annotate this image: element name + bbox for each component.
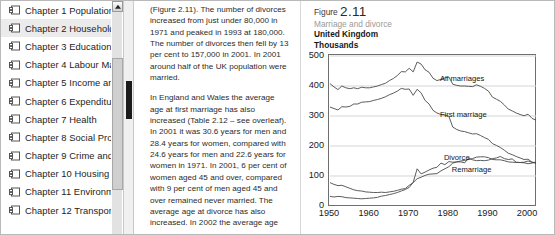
y-axis-tick-label: 200 xyxy=(284,141,324,150)
outer-scrollbar[interactable] xyxy=(111,1,122,234)
figure-geography: United Kingdom xyxy=(314,29,534,39)
triangle-up-icon xyxy=(115,4,121,8)
figure-panel: Figure 2.11 Marriage and divorce United … xyxy=(300,1,554,234)
bookmarks-sidebar[interactable]: Chapter 1 PopulationChapter 2 Households… xyxy=(1,1,111,234)
folder-icon xyxy=(9,169,20,179)
figure-number: 2.11 xyxy=(340,4,366,19)
pane-divider xyxy=(135,1,148,234)
figure-number-line: Figure 2.11 xyxy=(314,6,534,18)
sidebar-item-chapter-2[interactable]: Chapter 2 Households xyxy=(1,19,111,37)
sidebar-item-chapter-10[interactable]: Chapter 10 Housing xyxy=(1,165,111,183)
folder-icon xyxy=(9,23,20,33)
folder-icon xyxy=(9,5,20,15)
sidebar-item-label: Chapter 4 Labour Market xyxy=(25,59,111,70)
series-label-divorce: Divorce xyxy=(444,153,470,162)
folder-icon xyxy=(9,187,20,197)
sidebar-item-chapter-11[interactable]: Chapter 11 Environment xyxy=(1,183,111,201)
body-paragraph-1: (Figure 2.11). The number of divorces in… xyxy=(150,4,290,83)
sidebar-item-chapter-6[interactable]: Chapter 6 Expenditure xyxy=(1,92,111,110)
sidebar-item-chapter-12[interactable]: Chapter 12 Transport xyxy=(1,201,111,219)
scroll-up-button[interactable] xyxy=(112,1,123,12)
folder-icon xyxy=(9,205,20,215)
sidebar-item-label: Chapter 5 Income and Wealth xyxy=(25,77,111,88)
pdf-reader-window: Chapter 1 PopulationChapter 2 Households… xyxy=(0,0,555,235)
x-axis-tick-label: 1980 xyxy=(428,209,468,218)
sidebar-item-label: Chapter 10 Housing xyxy=(25,168,109,179)
folder-icon xyxy=(9,132,20,142)
x-axis-tick-label: 2000 xyxy=(507,209,547,218)
sidebar-item-chapter-3[interactable]: Chapter 3 Education xyxy=(1,37,111,55)
sidebar-item-label: Chapter 2 Households xyxy=(25,23,111,34)
x-axis-tick-label: 1950 xyxy=(309,209,349,218)
folder-icon xyxy=(9,78,20,88)
series-line-divorce xyxy=(330,157,536,199)
sidebar-item-chapter-7[interactable]: Chapter 7 Health xyxy=(1,110,111,128)
body-paragraph-2: In England and Wales the average age at … xyxy=(150,92,290,232)
series-line-remarriage xyxy=(330,157,536,193)
sidebar-item-label: Chapter 6 Expenditure xyxy=(25,96,111,107)
y-axis-tick-label: 400 xyxy=(284,81,324,90)
sidebar-item-chapter-8[interactable]: Chapter 8 Social Protection xyxy=(1,128,111,146)
y-axis-tick-label: 300 xyxy=(284,111,324,120)
x-axis-tick-label: 1990 xyxy=(467,209,507,218)
folder-icon xyxy=(9,41,20,51)
figure-subtitle: Marriage and divorce xyxy=(314,19,534,29)
sidebar-item-label: Chapter 1 Population xyxy=(25,5,111,16)
y-axis-tick-label: 500 xyxy=(284,51,324,60)
series-line-first-marriage xyxy=(330,88,536,163)
sidebar-item-label: Chapter 12 Transport xyxy=(25,205,111,216)
document-text-column: (Figure 2.11). The number of divorces in… xyxy=(150,4,290,232)
sidebar-item-label: Chapter 3 Education xyxy=(25,41,111,52)
sidebar-item-chapter-5[interactable]: Chapter 5 Income and Wealth xyxy=(1,74,111,92)
figure-heading: Figure 2.11 Marriage and divorce United … xyxy=(314,6,534,50)
x-axis-tick-label: 1970 xyxy=(388,209,428,218)
figure-number-prefix: Figure xyxy=(314,7,338,17)
folder-icon xyxy=(9,60,20,70)
inner-scrollbar-thumb[interactable] xyxy=(126,81,132,119)
series-line-all-marriages xyxy=(330,62,536,120)
folder-icon xyxy=(9,151,20,161)
sidebar-item-label: Chapter 7 Health xyxy=(25,114,97,125)
sidebar-item-chapter-9[interactable]: Chapter 9 Crime and Justice xyxy=(1,147,111,165)
sidebar-item-chapter-4[interactable]: Chapter 4 Labour Market xyxy=(1,56,111,74)
series-label-all-marriages: All marriages xyxy=(440,74,484,83)
outer-scrollbar-thumb[interactable] xyxy=(112,58,123,190)
sidebar-item-label: Chapter 9 Crime and Justice xyxy=(25,150,111,161)
folder-icon xyxy=(9,114,20,124)
folder-icon xyxy=(9,96,20,106)
sidebar-item-label: Chapter 8 Social Protection xyxy=(25,132,111,143)
line-chart: 0100200300400500195019601970198019902000… xyxy=(328,54,536,206)
figure-units: Thousands xyxy=(314,40,534,50)
series-label-first-marriage: First marriage xyxy=(440,110,487,119)
y-axis-tick-label: 100 xyxy=(284,171,324,180)
sidebar-item-label: Chapter 11 Environment xyxy=(25,186,111,197)
x-axis-tick-label: 1960 xyxy=(349,209,389,218)
sidebar-item-chapter-1[interactable]: Chapter 1 Population xyxy=(1,1,111,19)
series-label-remarriage: Remarriage xyxy=(452,165,492,174)
inner-scrollbar[interactable] xyxy=(123,1,134,234)
chart-plot-area xyxy=(328,54,536,206)
